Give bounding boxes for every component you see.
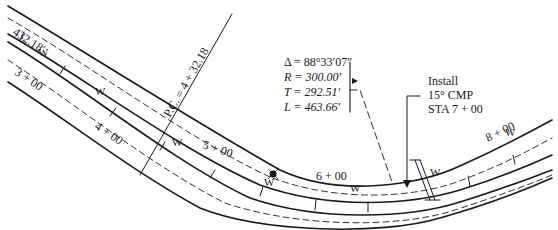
pc-label: P.C. = 4 + 32.18	[160, 45, 211, 119]
curve-delta: Δ = 88°33′07″	[284, 55, 352, 69]
station-label-6-00: 6 + 00	[316, 169, 347, 183]
water-line-label: W	[350, 182, 361, 194]
install-note-line3: STA 7 + 00	[428, 102, 483, 116]
flag-icon	[352, 78, 358, 84]
water-line-label: W	[95, 85, 106, 97]
water-line-label: W	[264, 176, 275, 188]
water-line-label: W	[505, 126, 516, 138]
install-arrow-icon	[403, 180, 411, 188]
curve-tangent: T = 292.51′	[284, 85, 341, 99]
water-line-label: W	[38, 46, 49, 58]
install-note-line1: Install	[428, 74, 459, 88]
curve-radius: R = 300.00′	[283, 70, 341, 84]
install-note-line2: 15° CMP	[428, 88, 473, 102]
station-label-3-00: 3 + 00	[12, 65, 45, 94]
water-line-label: W	[430, 166, 441, 178]
curve-leader	[350, 90, 392, 182]
curve-length: L = 463.66′	[283, 100, 341, 114]
road-edge-lower-lane	[8, 42, 552, 215]
road-curve-diagram: 432.18′ 3 + 00 4 + 00 5 + 00 6 + 00 8 + …	[0, 0, 558, 230]
water-line-label: W	[172, 136, 183, 148]
